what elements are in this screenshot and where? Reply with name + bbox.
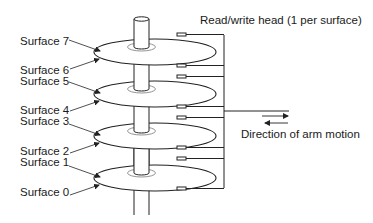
surface-label-7: Surface 7 (20, 35, 69, 47)
platter-3 (94, 17, 216, 65)
head-4 (177, 105, 224, 108)
surface-label-3: Surface 3 (20, 115, 69, 127)
disk-platters-diagram: Read/write head (1 per surface) Directio… (0, 0, 373, 223)
spindle-top (134, 17, 149, 21)
head-5 (177, 75, 224, 78)
head-7 (177, 33, 224, 36)
head-6 (177, 64, 224, 67)
surface-label-1: Surface 1 (20, 156, 69, 168)
head-1 (177, 157, 224, 160)
head-3 (177, 116, 224, 119)
head-title-label: Read/write head (1 per surface) (200, 14, 362, 26)
arm-motion-label: Direction of arm motion (241, 128, 360, 140)
arm-motion-arrows (262, 116, 288, 123)
surface-label-0: Surface 0 (20, 186, 69, 198)
head-0 (177, 187, 224, 190)
surface-label-5: Surface 5 (20, 75, 69, 87)
leader-lines (69, 40, 100, 195)
head-2 (177, 146, 224, 149)
